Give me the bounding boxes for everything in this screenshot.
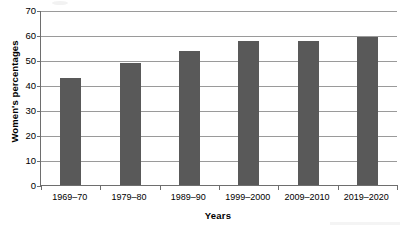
- x-tick-mark: [41, 185, 42, 190]
- y-tick-label: 10: [14, 156, 36, 166]
- y-tick-mark: [37, 136, 41, 137]
- x-axis-title: Years: [38, 210, 398, 221]
- y-tick-mark: [37, 36, 41, 37]
- gridline: [41, 36, 397, 37]
- y-tick-label: 30: [14, 106, 36, 116]
- x-tick-mark: [338, 185, 339, 190]
- bar: [60, 78, 81, 186]
- scan-artifact-top: [52, 1, 68, 5]
- y-tick-mark: [37, 61, 41, 62]
- scan-artifact-bottom: [330, 222, 400, 225]
- gridline: [41, 11, 397, 12]
- gridline: [41, 136, 397, 137]
- y-tick-label: 40: [14, 81, 36, 91]
- y-tick-label: 50: [14, 56, 36, 66]
- x-axis-tick-labels: 1969–701979–801989–901999–20002009–20102…: [40, 192, 397, 206]
- bar: [357, 37, 378, 185]
- y-tick-label: 0: [14, 181, 36, 191]
- x-tick-mark: [100, 185, 101, 190]
- x-tick-mark: [219, 185, 220, 190]
- x-tick-label: 2019–2020: [331, 192, 401, 203]
- x-tick-mark: [397, 185, 398, 190]
- gridline: [41, 161, 397, 162]
- bar: [120, 63, 141, 186]
- y-tick-label: 70: [14, 6, 36, 16]
- plot-area: [40, 11, 397, 186]
- y-tick-label: 60: [14, 31, 36, 41]
- y-axis-tick-labels: 010203040506070: [12, 0, 36, 231]
- gridline: [41, 61, 397, 62]
- y-tick-label: 20: [14, 131, 36, 141]
- bar-chart: Women's percentages 010203040506070 1969…: [0, 0, 412, 231]
- gridline: [41, 111, 397, 112]
- y-tick-mark: [37, 86, 41, 87]
- y-tick-mark: [37, 111, 41, 112]
- bar: [238, 41, 259, 185]
- bar: [298, 41, 319, 186]
- gridline: [41, 86, 397, 87]
- x-tick-mark: [160, 185, 161, 190]
- y-tick-mark: [37, 11, 41, 12]
- bar: [179, 51, 200, 185]
- x-tick-mark: [278, 185, 279, 190]
- y-tick-mark: [37, 161, 41, 162]
